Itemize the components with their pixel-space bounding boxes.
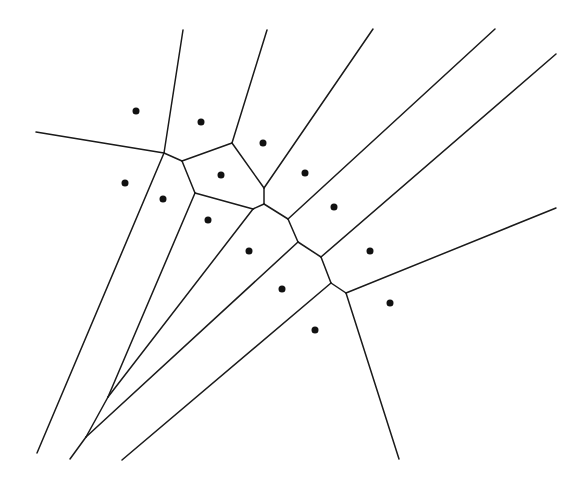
voronoi-edges [36, 29, 556, 460]
voronoi-site-point [246, 248, 253, 255]
voronoi-edge [298, 242, 321, 257]
voronoi-edge [108, 193, 195, 397]
voronoi-site-point [205, 217, 212, 224]
voronoi-edge [36, 132, 164, 153]
voronoi-edge [122, 283, 331, 460]
voronoi-edge [37, 153, 164, 453]
voronoi-site-point [312, 327, 319, 334]
voronoi-edge [346, 293, 399, 459]
voronoi-site-point [279, 286, 286, 293]
voronoi-site-point [133, 108, 140, 115]
voronoi-edge [346, 208, 556, 293]
voronoi-site-point [302, 170, 309, 177]
voronoi-site-point [198, 119, 205, 126]
voronoi-edge [288, 29, 495, 219]
voronoi-edge [182, 161, 195, 193]
voronoi-edge [164, 153, 182, 161]
voronoi-site-point [367, 248, 374, 255]
voronoi-site-point [218, 172, 225, 179]
voronoi-sites [122, 108, 394, 334]
voronoi-edge [86, 397, 108, 437]
voronoi-edge [70, 437, 86, 459]
voronoi-diagram [0, 0, 583, 482]
voronoi-edge [264, 204, 288, 219]
voronoi-canvas [0, 0, 583, 482]
voronoi-site-point [160, 196, 167, 203]
voronoi-edge [253, 204, 264, 209]
voronoi-edge [321, 257, 331, 283]
voronoi-edge [331, 283, 346, 293]
voronoi-edge [195, 193, 253, 209]
voronoi-site-point [122, 180, 129, 187]
voronoi-edge [86, 242, 298, 437]
voronoi-edge [164, 30, 183, 153]
voronoi-site-point [387, 300, 394, 307]
voronoi-site-point [331, 204, 338, 211]
voronoi-edge [264, 29, 373, 188]
voronoi-edge [232, 30, 267, 143]
voronoi-site-point [260, 140, 267, 147]
voronoi-edge [182, 143, 232, 161]
voronoi-edge [232, 143, 264, 188]
voronoi-edge [288, 219, 298, 242]
